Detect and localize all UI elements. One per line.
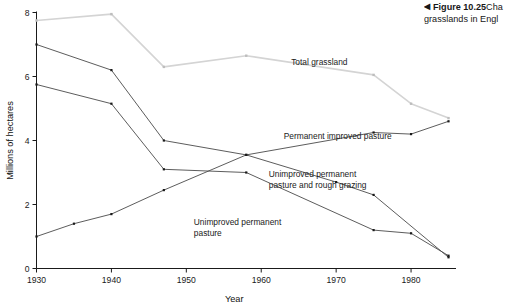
left-triangle-icon: ◀ (424, 2, 430, 11)
series-marker (35, 235, 37, 237)
x-axis-tick-label: 1970 (327, 275, 346, 285)
series-marker (35, 43, 37, 45)
x-axis-tick-label: 1950 (177, 275, 196, 285)
series-marker (447, 255, 449, 257)
y-axis-title: Millions of hectares (5, 101, 15, 180)
series-marker (245, 55, 247, 57)
x-axis-tick-label: 1980 (401, 275, 420, 285)
figure-caption: ◀Figure 10.25Cha grasslands in Engl (424, 1, 520, 25)
figure-caption-line2: grasslands in Engl (424, 14, 520, 26)
series-marker (372, 74, 374, 76)
figure-number: Figure 10.25 (433, 2, 486, 12)
series-marker (410, 133, 412, 135)
series-label: Total grassland (291, 57, 348, 67)
series-marker (35, 83, 37, 85)
series-marker (245, 154, 247, 156)
series-marker (372, 194, 374, 196)
x-axis-tick-label: 1960 (252, 275, 271, 285)
series-marker (163, 66, 165, 68)
figure-container: 02468193019401950196019701980YearMillion… (0, 0, 520, 307)
series-label: Permanent improved pasture (284, 131, 392, 141)
y-axis-tick-label: 4 (25, 136, 30, 146)
series-line (37, 14, 449, 118)
series-marker (447, 120, 449, 122)
series-marker (110, 103, 112, 105)
series-marker (110, 213, 112, 215)
series-marker (245, 171, 247, 173)
series-marker (35, 19, 37, 21)
series-marker (110, 69, 112, 71)
series-marker (110, 13, 112, 15)
figure-caption-line1: Cha (486, 2, 503, 12)
series-marker (163, 168, 165, 170)
y-axis-tick-label: 6 (25, 72, 30, 82)
series-label: Unimproved permanentpasture and rough gr… (269, 169, 367, 189)
series-marker (372, 229, 374, 231)
series-marker (447, 117, 449, 119)
x-axis-tick-label: 1930 (27, 275, 46, 285)
y-axis-tick-label: 0 (25, 264, 30, 274)
series-marker (163, 189, 165, 191)
y-axis-tick-label: 2 (25, 200, 30, 210)
line-chart: 02468193019401950196019701980YearMillion… (0, 0, 520, 307)
series-marker (410, 103, 412, 105)
series-marker (163, 139, 165, 141)
series-line (37, 85, 449, 256)
series-marker (410, 232, 412, 234)
series-label: Unimproved permanentpasture (194, 217, 282, 237)
y-axis-tick-label: 8 (25, 8, 30, 18)
x-axis-tick-label: 1940 (102, 275, 121, 285)
x-axis-title: Year (225, 294, 244, 304)
series-marker (73, 223, 75, 225)
